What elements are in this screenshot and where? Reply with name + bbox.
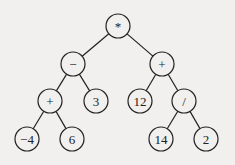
tree-edge (33, 111, 44, 128)
node-label: 12 (134, 94, 147, 109)
tree-edge (190, 111, 200, 128)
tree-node: 2 (194, 127, 218, 151)
tree-node: * (106, 14, 130, 38)
tree-edge (56, 74, 66, 91)
tree-node: 3 (84, 89, 108, 113)
tree-edge (167, 111, 178, 128)
node-label: + (158, 57, 165, 72)
expression-tree-diagram: *−++312/−46142 (0, 0, 235, 165)
tree-node: − (61, 52, 85, 76)
tree-node: 14 (149, 127, 173, 151)
tree-node: / (172, 89, 196, 113)
tree-edge (168, 74, 178, 90)
tree-edge (79, 74, 89, 91)
tree-svg: *−++312/−46142 (0, 0, 235, 165)
node-label: 2 (203, 132, 210, 147)
node-label: −4 (20, 132, 34, 147)
node-label: − (69, 57, 76, 72)
tree-node: + (38, 89, 62, 113)
tree-node: + (150, 52, 174, 76)
tree-node: 6 (60, 127, 84, 151)
tree-edges (33, 34, 200, 129)
node-label: / (182, 94, 186, 109)
node-label: 3 (93, 94, 100, 109)
tree-edge (146, 74, 156, 90)
node-label: 14 (155, 132, 169, 147)
tree-node: −4 (15, 127, 39, 151)
tree-edge (127, 34, 153, 56)
node-label: + (46, 94, 53, 109)
tree-edge (56, 111, 66, 128)
node-label: * (115, 19, 122, 34)
tree-edge (82, 34, 109, 57)
node-label: 6 (69, 132, 76, 147)
tree-nodes: *−++312/−46142 (15, 14, 218, 151)
tree-node: 12 (128, 89, 152, 113)
